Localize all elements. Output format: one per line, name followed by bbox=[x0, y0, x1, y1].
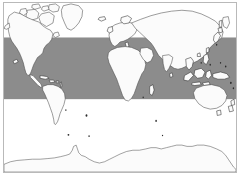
island-dot-pacific-b bbox=[233, 87, 234, 89]
landmass-tasmania bbox=[217, 110, 222, 115]
island-dot-mauritius bbox=[143, 96, 144, 98]
landmass-sri-lanka bbox=[170, 73, 173, 78]
island-dot-ryukyu bbox=[216, 44, 217, 46]
antarctica-svg bbox=[4, 131, 236, 172]
world-distribution-map-figure: .land{fill:#fbfbfb;stroke:#4a4a4a;stroke… bbox=[0, 0, 240, 175]
island-dot-antarctic-a bbox=[68, 134, 70, 136]
world-map-panel: .land{fill:#fbfbfb;stroke:#4a4a4a;stroke… bbox=[4, 3, 236, 130]
landmass-sakhalin bbox=[219, 20, 222, 27]
island-dot-pacific-a bbox=[230, 82, 232, 84]
landmass-taiwan bbox=[206, 47, 209, 52]
island-dot-antarctic-b bbox=[88, 135, 90, 137]
antarctica-panel bbox=[4, 131, 236, 172]
island-dot-pacific-f bbox=[201, 62, 202, 64]
landmass-java bbox=[192, 82, 202, 86]
landmass-hainan bbox=[197, 53, 200, 57]
island-dot-pacific-c bbox=[225, 65, 227, 67]
island-dot-pacific-d bbox=[220, 62, 221, 64]
landmass-puerto-rico bbox=[56, 81, 59, 83]
island-dot-south-indian bbox=[155, 120, 157, 122]
island-dot-falkland bbox=[86, 114, 88, 117]
island-dot-pacific-e bbox=[210, 64, 211, 66]
island-dot-south-atlantic bbox=[65, 109, 66, 111]
world-map-svg: .land{fill:#fbfbfb;stroke:#4a4a4a;stroke… bbox=[4, 3, 236, 130]
island-dot-antarctic-c bbox=[162, 135, 163, 136]
